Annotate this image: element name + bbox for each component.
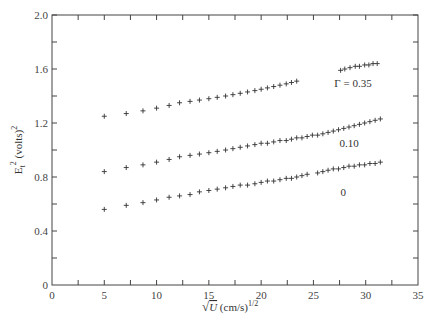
plus-marker xyxy=(167,103,172,108)
y-tick-label: 0 xyxy=(43,279,49,291)
plus-marker xyxy=(284,138,289,143)
plus-marker xyxy=(102,207,107,212)
plus-marker xyxy=(373,118,378,123)
plus-marker xyxy=(294,135,299,140)
plus-marker xyxy=(305,134,310,139)
plus-marker xyxy=(373,161,378,166)
plus-marker xyxy=(206,188,211,193)
plus-marker xyxy=(331,129,336,134)
y-axis-label: Et2 (volts)2 xyxy=(9,126,27,174)
x-tick-label: 5 xyxy=(102,289,108,301)
plus-marker xyxy=(348,65,353,70)
plus-marker xyxy=(259,87,264,92)
plus-marker xyxy=(259,180,264,185)
x-tick-label: 30 xyxy=(360,289,372,301)
plus-marker xyxy=(265,141,270,146)
plus-marker xyxy=(154,106,159,111)
y-tick-label: 1.2 xyxy=(34,117,48,129)
plus-marker xyxy=(352,164,357,169)
plus-marker xyxy=(215,149,220,154)
plus-marker xyxy=(124,165,129,170)
plus-marker xyxy=(299,173,304,178)
plus-marker xyxy=(238,145,243,150)
plus-marker xyxy=(177,100,182,105)
plus-marker xyxy=(331,166,336,171)
plus-marker xyxy=(378,160,383,165)
x-tick-label: 35 xyxy=(413,289,425,301)
plus-marker xyxy=(230,92,235,97)
x-tick-label: 10 xyxy=(151,289,163,301)
plus-marker xyxy=(299,135,304,140)
plus-marker xyxy=(277,177,282,182)
plus-marker xyxy=(357,64,362,69)
plus-marker xyxy=(265,85,270,90)
plus-marker xyxy=(154,160,159,165)
y-tick-label: 2.0 xyxy=(34,9,48,21)
plus-marker xyxy=(167,157,172,162)
series-label: Γ = 0.35 xyxy=(334,77,372,89)
y-tick-label: 1.6 xyxy=(34,63,48,75)
x-tick-label: 0 xyxy=(49,289,55,301)
plus-marker xyxy=(197,189,202,194)
plus-marker xyxy=(259,141,264,146)
plus-marker xyxy=(378,116,383,121)
plus-marker xyxy=(238,91,243,96)
y-tick-label: 0.4 xyxy=(34,225,48,237)
series-label: 0 xyxy=(341,186,347,198)
plus-marker xyxy=(140,162,145,167)
plus-marker xyxy=(326,168,331,173)
plus-marker xyxy=(367,161,372,166)
plus-marker xyxy=(375,61,380,66)
plus-marker xyxy=(310,133,315,138)
plus-marker xyxy=(352,123,357,128)
plus-marker xyxy=(230,184,235,189)
plus-marker xyxy=(346,164,351,169)
series-annotations: Γ = 0.350.100 xyxy=(334,77,372,198)
x-tick-label: 25 xyxy=(308,289,320,301)
plus-marker xyxy=(346,125,351,130)
x-axis-label: √U (cm/s)1/2 xyxy=(202,299,258,314)
plus-marker xyxy=(206,96,211,101)
plus-marker xyxy=(277,83,282,88)
y-tick-label: 0.8 xyxy=(34,171,48,183)
plus-marker xyxy=(124,203,129,208)
plus-marker xyxy=(177,154,182,159)
plus-marker xyxy=(336,166,341,171)
series-label: 0.10 xyxy=(340,137,360,149)
plus-marker xyxy=(289,176,294,181)
plus-marker xyxy=(362,121,367,126)
series--0.35 xyxy=(102,61,380,119)
plus-marker xyxy=(320,169,325,174)
plus-marker xyxy=(315,170,320,175)
axis-ticks xyxy=(52,15,418,285)
y-tick-labels: 00.40.81.21.62.0 xyxy=(34,9,48,291)
plot-frame xyxy=(52,15,418,285)
plus-marker xyxy=(230,146,235,151)
plus-marker xyxy=(177,193,182,198)
plus-marker xyxy=(362,162,367,167)
plus-marker xyxy=(367,119,372,124)
plus-marker xyxy=(167,195,172,200)
plus-marker xyxy=(188,153,193,158)
scatter-chart: 05101520253035 00.40.81.21.62.0 Γ = 0.35… xyxy=(0,0,427,327)
plus-marker xyxy=(271,179,276,184)
plus-marker xyxy=(197,98,202,103)
plus-marker xyxy=(265,179,270,184)
plus-marker xyxy=(154,197,159,202)
plus-marker xyxy=(336,127,341,132)
plus-marker xyxy=(188,99,193,104)
plus-marker xyxy=(277,138,282,143)
plus-marker xyxy=(245,89,250,94)
plus-marker xyxy=(102,114,107,119)
plus-marker xyxy=(223,185,228,190)
plus-marker xyxy=(271,84,276,89)
plus-marker xyxy=(357,122,362,127)
plus-marker xyxy=(245,183,250,188)
plus-marker xyxy=(252,181,257,186)
plus-marker xyxy=(271,139,276,144)
plus-marker xyxy=(245,143,250,148)
plus-marker xyxy=(284,81,289,86)
plus-marker xyxy=(341,165,346,170)
plus-marker xyxy=(140,108,145,113)
plus-marker xyxy=(341,126,346,131)
